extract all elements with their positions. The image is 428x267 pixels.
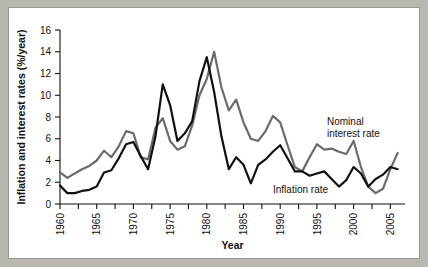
y-tick-label: 2 — [45, 177, 51, 188]
x-tick-label: 1980 — [201, 213, 212, 236]
y-tick-label: 8 — [45, 112, 51, 123]
y-axis-ticks — [55, 30, 60, 204]
x-tick-label: 2000 — [348, 213, 359, 236]
x-tick-label: 1990 — [275, 213, 286, 236]
x-axis-tick-labels: 1960196519701975198019851990199520002005 — [55, 213, 396, 236]
inflation-interest-line-chart: 0246810121416 19601965197019751980198519… — [9, 8, 421, 260]
y-tick-label: 6 — [45, 133, 51, 144]
figure-panel: 0246810121416 19601965197019751980198519… — [8, 7, 420, 259]
y-tick-label: 16 — [40, 25, 52, 36]
y-tick-label: 10 — [40, 90, 52, 101]
y-axis-title: Inflation and interest rates (%/year) — [15, 29, 27, 204]
y-tick-label: 14 — [40, 46, 52, 57]
x-tick-label: 1975 — [165, 213, 176, 236]
series-annotations: Nominalinterest rateInflation rate — [273, 116, 380, 195]
nominal-interest-rate-label-line2: interest rate — [327, 128, 380, 139]
x-tick-label: 1965 — [91, 213, 102, 236]
y-tick-label: 12 — [40, 68, 52, 79]
x-tick-label: 1970 — [128, 213, 139, 236]
x-tick-label: 1960 — [55, 213, 66, 236]
y-tick-label: 4 — [45, 155, 51, 166]
x-tick-label: 1985 — [238, 213, 249, 236]
x-axis-ticks — [60, 204, 390, 209]
x-tick-label: 1995 — [312, 213, 323, 236]
nominal-interest-rate-label: Nominal — [327, 116, 364, 127]
inflation-rate-label: Inflation rate — [273, 184, 328, 195]
x-tick-label: 2005 — [385, 213, 396, 236]
y-axis-tick-labels: 0246810121416 — [40, 25, 52, 210]
y-tick-label: 0 — [45, 199, 51, 210]
x-axis-title: Year — [221, 239, 243, 251]
chart-container: 0246810121416 19601965197019751980198519… — [9, 8, 421, 260]
